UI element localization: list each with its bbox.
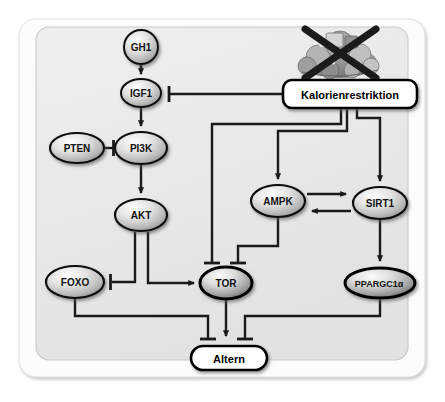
node-sirt1[interactable]: SIRT1 (353, 187, 407, 219)
node-gh1[interactable]: GH1 (124, 30, 158, 64)
box-kalorienrestriktion[interactable]: Kalorienrestriktion (283, 80, 417, 108)
node-akt[interactable]: AKT (115, 199, 167, 231)
node-ampk[interactable]: AMPK (251, 185, 305, 217)
node-tor[interactable]: TOR (200, 267, 252, 299)
box-altern[interactable]: Altern (191, 346, 267, 370)
pathway-diagram: GH1 IGF1 PTEN PI3K AKT FOXO TOR (0, 0, 445, 402)
crossed-out-food-icon (298, 29, 379, 79)
node-pi3k[interactable]: PI3K (115, 132, 167, 164)
node-igf1[interactable]: IGF1 (121, 79, 161, 107)
node-foxo[interactable]: FOXO (46, 266, 104, 298)
node-pten[interactable]: PTEN (50, 133, 104, 163)
node-ppargc1a[interactable]: PPARGC1α (345, 268, 415, 298)
